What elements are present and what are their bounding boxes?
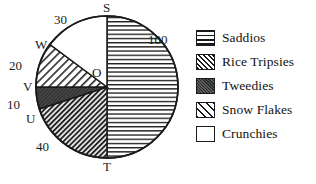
pie-point-label-w: W xyxy=(35,38,47,51)
pie-point-label-v: V xyxy=(23,80,32,93)
pie-value-label-rice-tripsies: 40 xyxy=(36,140,49,153)
legend-swatch-crunchies-icon xyxy=(196,126,215,142)
legend-label-rice-tripsies: Rice Tripsies xyxy=(222,54,294,70)
legend-item-saddios: Saddios xyxy=(196,26,314,50)
legend-swatch-snow-flakes-icon xyxy=(196,102,215,118)
pie-value-label-snow-flakes: 20 xyxy=(9,59,22,72)
legend-item-crunchies: Crunchies xyxy=(196,122,314,146)
pie-value-label-tweedies: 10 xyxy=(7,98,20,111)
legend-swatch-rice-tripsies-icon xyxy=(196,54,215,70)
legend-label-snow-flakes: Snow Flakes xyxy=(222,102,292,118)
legend-label-crunchies: Crunchies xyxy=(222,126,278,142)
legend-item-rice-tripsies: Rice Tripsies xyxy=(196,50,314,74)
legend-item-snow-flakes: Snow Flakes xyxy=(196,98,314,122)
pie-center-label-o: O xyxy=(92,66,101,79)
legend-item-tweedies: Tweedies xyxy=(196,74,314,98)
pie-point-label-t: T xyxy=(103,160,111,173)
chart-legend: Saddios Rice Tripsies Tweedies Snow Flak… xyxy=(196,26,314,146)
legend-label-tweedies: Tweedies xyxy=(222,78,274,94)
pie-value-label-crunchies: 30 xyxy=(54,13,67,26)
pie-point-label-s: S xyxy=(103,1,110,14)
legend-swatch-saddios-icon xyxy=(196,30,215,46)
pie-chart-figure: S T U V W O 100 40 10 20 30 Saddios Rice… xyxy=(0,0,316,184)
legend-swatch-tweedies-icon xyxy=(196,78,215,94)
legend-label-saddios: Saddios xyxy=(222,30,265,46)
pie-point-label-u: U xyxy=(26,112,35,125)
pie-value-label-saddios: 100 xyxy=(148,33,168,46)
